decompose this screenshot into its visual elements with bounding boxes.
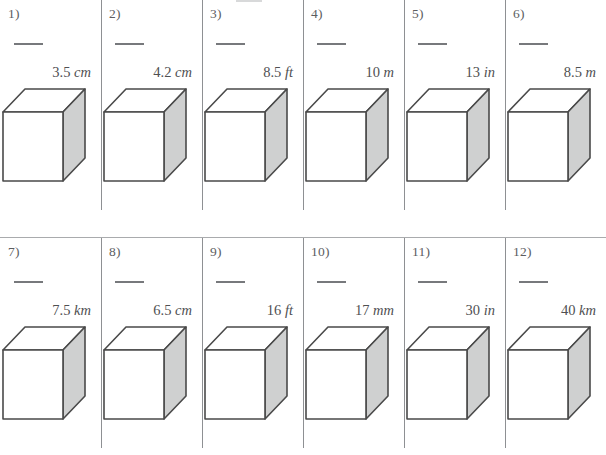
problem-number: 2): [109, 7, 121, 21]
problem-number: 4): [311, 7, 323, 21]
edge-unit: mm: [373, 302, 394, 318]
edge-unit: km: [579, 302, 596, 318]
problem-cell-4[interactable]: 4) 10 m: [303, 0, 404, 227]
edge-length-label: 3.5 cm: [52, 64, 91, 81]
cube-front-face: [104, 112, 164, 181]
cube-front-face: [205, 112, 265, 181]
edge-value: 8.5: [564, 64, 582, 80]
cube-front-face: [306, 350, 366, 419]
edge-length-label: 40 km: [561, 302, 596, 319]
problem-cell-5[interactable]: 5) 13 in: [404, 0, 505, 227]
cube-figure: [103, 84, 195, 188]
cube-figure: [305, 322, 397, 426]
cube-front-face: [407, 350, 467, 419]
problem-cell-8[interactable]: 8) 6.5 cm: [101, 238, 202, 455]
edge-length-label: 30 in: [466, 302, 495, 319]
problem-number: 8): [109, 245, 121, 259]
answer-blank[interactable]: [115, 43, 144, 45]
answer-blank[interactable]: [216, 281, 245, 283]
answer-blank[interactable]: [317, 281, 346, 283]
edge-unit: in: [484, 64, 495, 80]
problem-number: 9): [210, 245, 222, 259]
problem-number: 6): [513, 7, 525, 21]
problem-number: 10): [311, 245, 330, 259]
edge-value: 16: [267, 302, 282, 318]
cube-figure: [204, 84, 296, 188]
cube-figure: [2, 322, 94, 426]
edge-length-label: 17 mm: [355, 302, 394, 319]
problem-cell-2[interactable]: 2) 4.2 cm: [101, 0, 202, 227]
answer-blank[interactable]: [418, 43, 447, 45]
cube-front-face: [3, 112, 63, 181]
answer-blank[interactable]: [519, 281, 548, 283]
cube-front-face: [407, 112, 467, 181]
edge-unit: ft: [285, 64, 293, 80]
cube-figure: [507, 322, 599, 426]
problem-cell-11[interactable]: 11) 30 in: [404, 238, 505, 455]
problem-cell-10[interactable]: 10) 17 mm: [303, 238, 404, 455]
cube-front-face: [508, 350, 568, 419]
cube-front-face: [508, 112, 568, 181]
edge-length-label: 4.2 cm: [153, 64, 192, 81]
problem-row-bottom: 7) 7.5 km 8) 6.5 cm: [0, 238, 606, 455]
edge-unit: km: [74, 302, 91, 318]
cube-figure: [2, 84, 94, 188]
edge-value: 13: [466, 64, 481, 80]
cube-figure: [305, 84, 397, 188]
cube-front-face: [104, 350, 164, 419]
problem-cell-12[interactable]: 12) 40 km: [505, 238, 606, 455]
edge-value: 6.5: [153, 302, 171, 318]
edge-length-label: 16 ft: [267, 302, 293, 319]
edge-unit: m: [586, 64, 596, 80]
edge-unit: in: [484, 302, 495, 318]
cube-figure: [204, 322, 296, 426]
problem-cell-6[interactable]: 6) 8.5 m: [505, 0, 606, 227]
problem-number: 11): [412, 245, 430, 259]
edge-unit: ft: [285, 302, 293, 318]
edge-value: 3.5: [52, 64, 70, 80]
edge-value: 4.2: [153, 64, 171, 80]
answer-blank[interactable]: [115, 281, 144, 283]
cube-figure: [406, 322, 498, 426]
problem-cell-7[interactable]: 7) 7.5 km: [0, 238, 101, 455]
edge-length-label: 8.5 ft: [263, 64, 293, 81]
edge-unit: cm: [175, 302, 192, 318]
edge-value: 40: [561, 302, 576, 318]
edge-value: 30: [466, 302, 481, 318]
cube-figure: [507, 84, 599, 188]
problem-cell-9[interactable]: 9) 16 ft: [202, 238, 303, 455]
cube-front-face: [205, 350, 265, 419]
edge-unit: cm: [74, 64, 91, 80]
edge-value: 7.5: [52, 302, 70, 318]
problem-number: 5): [412, 7, 424, 21]
problem-cell-3[interactable]: 3) 8.5 ft: [202, 0, 303, 227]
cube-figure: [406, 84, 498, 188]
edge-value: 17: [355, 302, 370, 318]
problem-cell-1[interactable]: 1) 3.5 cm: [0, 0, 101, 227]
problem-row-top: 1) 3.5 cm 2) 4.2 cm: [0, 0, 606, 227]
answer-blank[interactable]: [519, 43, 548, 45]
problem-number: 12): [513, 245, 532, 259]
problem-number: 3): [210, 7, 222, 21]
edge-length-label: 7.5 km: [52, 302, 91, 319]
problem-number: 7): [8, 245, 20, 259]
cube-figure: [103, 322, 195, 426]
answer-blank[interactable]: [418, 281, 447, 283]
edge-unit: cm: [175, 64, 192, 80]
edge-length-label: 10 m: [365, 64, 394, 81]
cube-front-face: [3, 350, 63, 419]
edge-length-label: 8.5 m: [564, 64, 596, 81]
edge-unit: m: [384, 64, 394, 80]
edge-value: 8.5: [263, 64, 281, 80]
cube-front-face: [306, 112, 366, 181]
answer-blank[interactable]: [317, 43, 346, 45]
answer-blank[interactable]: [216, 43, 245, 45]
edge-length-label: 6.5 cm: [153, 302, 192, 319]
worksheet-page: 1) 3.5 cm 2) 4.2 cm: [0, 0, 606, 455]
edge-value: 10: [365, 64, 380, 80]
answer-blank[interactable]: [14, 281, 43, 283]
edge-length-label: 13 in: [466, 64, 495, 81]
answer-blank[interactable]: [14, 43, 43, 45]
problem-number: 1): [8, 7, 20, 21]
